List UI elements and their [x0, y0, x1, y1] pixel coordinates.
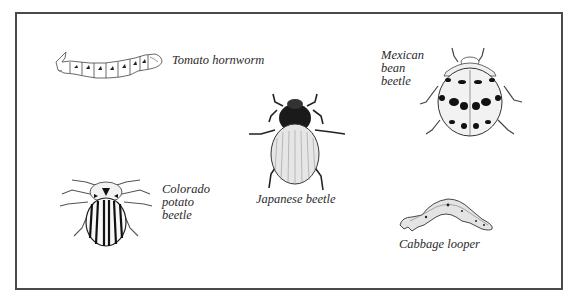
japanese-beetle-label: Japanese beetle — [256, 193, 335, 206]
tomato-hornworm-illustration — [50, 48, 165, 86]
cabbage-looper-label: Cabbage looper — [399, 238, 480, 251]
colorado-potato-beetle-illustration — [58, 178, 154, 248]
cabbage-looper-illustration — [396, 195, 498, 237]
mexican-bean-beetle-illustration — [418, 46, 526, 140]
japanese-beetle-illustration — [245, 92, 350, 192]
tomato-hornworm-label: Tomato hornworm — [172, 54, 264, 67]
colorado-potato-beetle-label: Colorado potato beetle — [162, 183, 210, 222]
